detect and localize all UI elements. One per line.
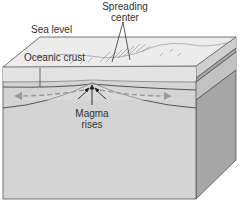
magma-label-line1: Magma xyxy=(72,108,112,119)
spreading-center-label: Spreading center xyxy=(100,1,150,23)
spreading-center-label-line1: Spreading xyxy=(100,1,150,12)
sea-level-label: Sea level xyxy=(31,24,72,35)
magma-rises-label: Magma rises xyxy=(72,108,112,130)
spreading-center-label-line2: center xyxy=(100,12,150,23)
magma-label-line2: rises xyxy=(72,119,112,130)
oceanic-crust-label: Oceanic crust xyxy=(24,52,85,63)
seafloor-spreading-diagram: Spreading center Sea level Oceanic crust… xyxy=(0,0,241,206)
